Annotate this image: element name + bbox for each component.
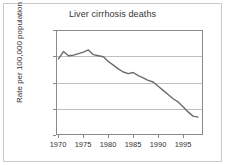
plot-area: 3025201510 197019751980198519901995 [56, 30, 203, 135]
chart-figure: Liver cirrhosis deaths Rate per 100,000 … [0, 0, 225, 165]
chart-title: Liver cirrhosis deaths [0, 9, 225, 19]
x-tick-mark [108, 135, 109, 138]
x-tick-mark [83, 135, 84, 138]
x-tick-mark [158, 135, 159, 138]
x-tick-mark [58, 135, 59, 138]
y-axis-label: Rate per 100,000 population [15, 0, 24, 113]
x-tick-mark [133, 135, 134, 138]
y-tick-mark [53, 135, 56, 136]
x-tick-mark [183, 135, 184, 138]
data-series-line [56, 30, 203, 135]
x-tick-label: 1995 [168, 141, 198, 149]
